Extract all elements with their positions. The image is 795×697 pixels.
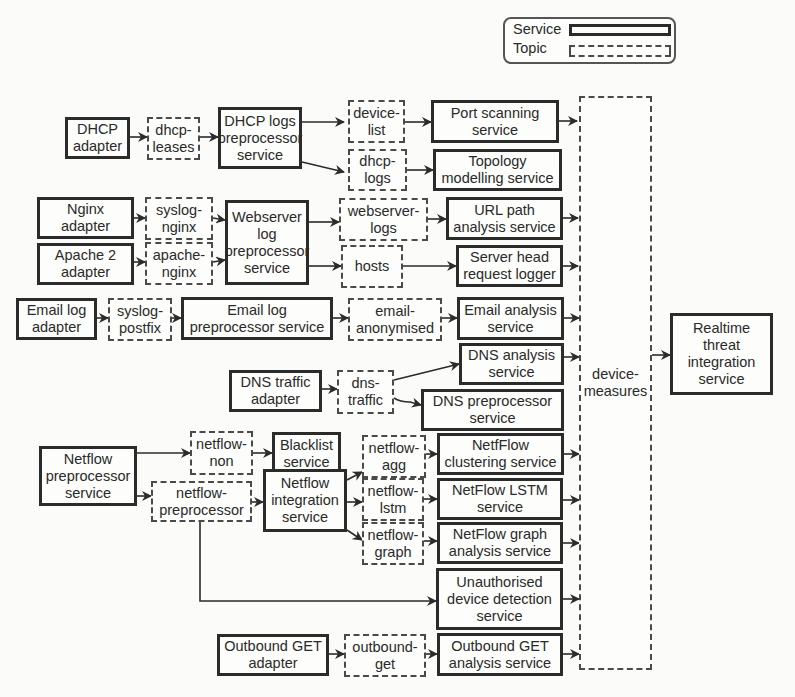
hosts-topic[interactable]: hosts <box>341 245 403 288</box>
legend-service-swatch <box>569 24 671 36</box>
netflow-agg-topic[interactable]: netflow- agg <box>362 435 426 478</box>
netflow-clustering-service[interactable]: NetfFlow clustering service <box>437 433 564 475</box>
syslog-nginx-topic[interactable]: syslog- nginx <box>145 197 213 240</box>
legend-service-label: Service <box>513 21 561 37</box>
netflow-preprocessor-service[interactable]: Netflow preprocessor service <box>39 446 137 506</box>
webserver-logs-topic[interactable]: webserver- logs <box>339 198 428 241</box>
outbound-get-analysis-service[interactable]: Outbound GET analysis service <box>437 633 563 676</box>
email-anonymised-topic[interactable]: email- anonymised <box>348 298 442 341</box>
outbound-get-adapter[interactable]: Outbound GET adapter <box>217 634 329 676</box>
dns-traffic-topic[interactable]: dns- traffic <box>337 370 394 414</box>
server-head-request-logger[interactable]: Server head request logger <box>456 245 563 287</box>
architecture-diagram: Service Topic <box>0 0 795 697</box>
apache2-adapter[interactable]: Apache 2 adapter <box>37 243 134 285</box>
netflow-integration-service[interactable]: Netflow integration service <box>263 469 347 532</box>
device-list-topic[interactable]: device- list <box>348 100 405 143</box>
netflow-preprocessor-topic[interactable]: netflow- preprocessor <box>151 481 252 522</box>
dns-traffic-adapter[interactable]: DNS traffic adapter <box>229 370 322 412</box>
outbound-get-topic[interactable]: outbound- get <box>344 634 426 677</box>
apache-nginx-topic[interactable]: apache- nginx <box>145 242 213 285</box>
unauthorised-device-detection-service[interactable]: Unauthorised device detection service <box>436 568 563 630</box>
dhcp-logs-topic[interactable]: dhcp- logs <box>348 149 407 191</box>
dhcp-adapter[interactable]: DHCP adapter <box>65 117 130 159</box>
webserver-log-preprocessor-service[interactable]: Webserver log preprocessor service <box>225 200 309 285</box>
legend-topic-swatch <box>569 45 671 57</box>
dhcp-logs-preprocessor-service[interactable]: DHCP logs preprocessor service <box>218 107 302 169</box>
port-scanning-service[interactable]: Port scanning service <box>431 100 559 143</box>
netflow-lstm-topic[interactable]: netflow- lstm <box>362 478 424 521</box>
syslog-postfix-topic[interactable]: syslog- postfix <box>108 298 172 341</box>
url-path-analysis-service[interactable]: URL path analysis service <box>446 197 563 240</box>
netflow-graph-topic[interactable]: netflow- graph <box>362 522 424 565</box>
realtime-threat-integration-service[interactable]: Realtime threat integration service <box>670 313 773 395</box>
email-analysis-service[interactable]: Email analysis service <box>457 297 564 340</box>
legend: Service Topic <box>503 17 676 64</box>
netflow-non-topic[interactable]: netflow- non <box>190 431 253 475</box>
nginx-adapter[interactable]: Nginx adapter <box>37 197 134 239</box>
email-log-adapter[interactable]: Email log adapter <box>16 298 97 340</box>
device-measures-topic[interactable]: device- measures <box>579 96 652 670</box>
netflow-lstm-service[interactable]: NetFlow LSTM service <box>437 478 563 520</box>
email-log-preprocessor-service[interactable]: Email log preprocessor service <box>181 297 333 340</box>
dns-preprocessor-service[interactable]: DNS preprocessor service <box>421 389 564 431</box>
netflow-graph-analysis-service[interactable]: NetFlow graph analysis service <box>437 522 563 564</box>
legend-topic-label: Topic <box>513 40 547 56</box>
dns-analysis-service[interactable]: DNS analysis service <box>459 343 564 385</box>
dhcp-leases-topic[interactable]: dhcp- leases <box>147 117 200 160</box>
topology-modelling-service[interactable]: Topology modelling service <box>433 149 562 191</box>
